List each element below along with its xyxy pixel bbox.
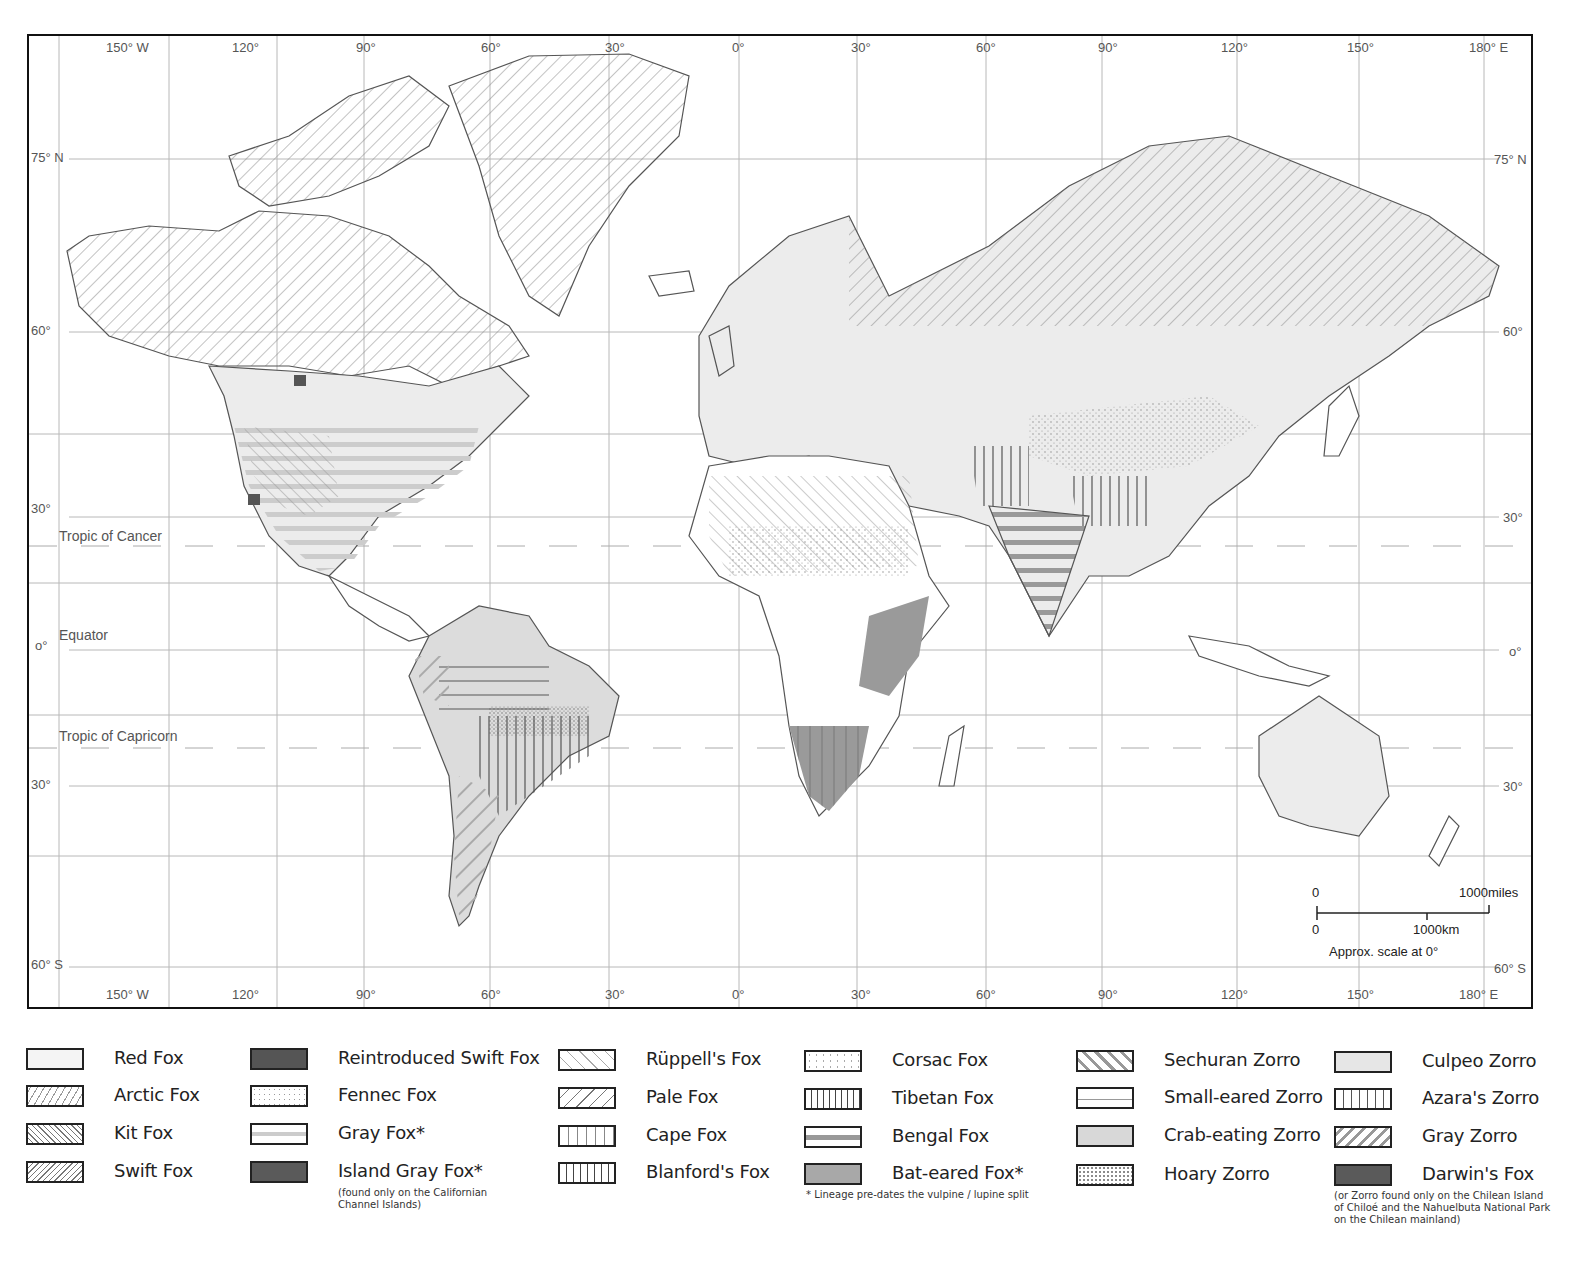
swatch-dots-sparse <box>804 1050 862 1072</box>
island-gray-fox-marker <box>248 494 260 505</box>
swatch-vertical-light <box>558 1125 616 1147</box>
central-america <box>329 576 429 641</box>
lat-label-left: 30° <box>31 777 51 792</box>
lat-label-right: 30° <box>1503 510 1523 525</box>
swatch-solid-very-dark <box>250 1161 308 1183</box>
scale-miles-start: 0 <box>1312 885 1319 900</box>
lat-label-left: o° <box>35 638 47 653</box>
legend-note-lineage: * Lineage pre-dates the vulpine / lupine… <box>806 1189 1066 1201</box>
madagascar <box>939 726 964 786</box>
swatch-diag-fwd-dense <box>26 1161 84 1183</box>
lon-label-bottom: 0° <box>732 987 744 1002</box>
legend-note-darwins-fox: (or Zorro found only on the Chilean Isla… <box>1334 1190 1554 1226</box>
map-canvas <box>29 36 1533 1009</box>
swatch-diag-back-thick <box>1076 1050 1134 1072</box>
swatch-horizontal-thick <box>804 1126 862 1148</box>
swatch-horizontal-band <box>250 1123 308 1145</box>
lon-label-bottom: 30° <box>851 987 871 1002</box>
lon-label-bottom: 60° <box>976 987 996 1002</box>
indonesia <box>1189 636 1329 686</box>
lon-label-top: 60° <box>481 40 501 55</box>
lat-label-left: 60° S <box>31 957 63 972</box>
reintroduced-swift-fox-marker <box>294 375 306 386</box>
scale-bar <box>1317 905 1489 920</box>
lon-label-top: 120° <box>1221 40 1248 55</box>
lat-label-left: 60° <box>31 323 51 338</box>
swatch-solid-medium <box>1076 1125 1134 1147</box>
lon-label-bottom: 60° <box>481 987 501 1002</box>
tropic-of-capricorn-label: Tropic of Capricorn <box>59 728 178 744</box>
landmasses <box>67 54 1499 926</box>
lat-label-right: 60° S <box>1494 961 1526 976</box>
swatch-solid-very-dark <box>1334 1164 1392 1186</box>
swatch-vertical-dark <box>558 1162 616 1184</box>
lat-label-right: 75° N <box>1494 152 1527 167</box>
swatch-diag-fwd-thick <box>1334 1126 1392 1148</box>
arctic-fox-eurasia <box>849 136 1499 326</box>
swatch-dots-dense <box>1076 1164 1134 1186</box>
blanfords-fox-range <box>969 446 1029 506</box>
world-map: 150° W 120° 90° 60° 30° 0° 30° 60° 90° 1… <box>27 34 1533 1009</box>
lon-label-top: 90° <box>1098 40 1118 55</box>
lon-label-top: 30° <box>605 40 625 55</box>
lon-label-top: 60° <box>976 40 996 55</box>
swatch-diag-fwd-sparse <box>558 1087 616 1109</box>
lon-label-bottom: 150° W <box>106 987 149 1002</box>
lat-label-right: 60° <box>1503 324 1523 339</box>
scale-km-start: 0 <box>1312 922 1319 937</box>
scale-km-end: 1000km <box>1413 922 1459 937</box>
tropic-of-cancer-label: Tropic of Cancer <box>59 528 162 544</box>
swatch-solid-dark <box>804 1163 862 1185</box>
swatch-diag-back-sparse <box>558 1049 616 1071</box>
swatch-diag-back-dense <box>26 1123 84 1145</box>
iceland <box>649 271 694 296</box>
lon-label-bottom: 90° <box>1098 987 1118 1002</box>
swatch-vertical-dense <box>804 1088 862 1110</box>
lat-label-right: o° <box>1509 644 1521 659</box>
lon-label-bottom: 120° <box>232 987 259 1002</box>
swatch-solid-very-dark <box>250 1048 308 1070</box>
lon-label-bottom: 120° <box>1221 987 1248 1002</box>
lon-label-top: 90° <box>356 40 376 55</box>
legend-note-island-gray-fox: (found only on the Californian Channel I… <box>338 1187 508 1211</box>
swatch-solid-light <box>26 1048 84 1070</box>
lon-label-bottom: 30° <box>605 987 625 1002</box>
swatch-diag-fwd-light <box>26 1085 84 1107</box>
north-america-north <box>67 211 529 386</box>
lon-label-bottom: 180° E <box>1459 987 1498 1002</box>
swatch-dots <box>250 1085 308 1107</box>
new-zealand <box>1429 816 1459 866</box>
lon-label-top: 120° <box>232 40 259 55</box>
equator-label: Equator <box>59 627 108 643</box>
australia <box>1259 696 1389 836</box>
lon-label-bottom: 150° <box>1347 987 1374 1002</box>
lon-label-top: 150° W <box>106 40 149 55</box>
swatch-horizontal-thin <box>1076 1087 1134 1109</box>
lon-label-top: 180° E <box>1469 40 1508 55</box>
scale-miles-end: 1000miles <box>1459 885 1518 900</box>
swatch-solid-light2 <box>1334 1051 1392 1073</box>
lat-label-left: 30° <box>31 501 51 516</box>
lon-label-top: 0° <box>732 40 744 55</box>
arctic-islands <box>229 76 449 206</box>
lat-label-right: 30° <box>1503 779 1523 794</box>
lon-label-top: 30° <box>851 40 871 55</box>
scale-caption: Approx. scale at 0° <box>1329 944 1438 959</box>
lon-label-bottom: 90° <box>356 987 376 1002</box>
lon-label-top: 150° <box>1347 40 1374 55</box>
legend: Red Fox Arctic Fox Kit Fox Swift Fox Rei… <box>0 1040 1594 1278</box>
lat-label-left: 75° N <box>31 150 64 165</box>
swatch-vertical-medium <box>1334 1088 1392 1110</box>
